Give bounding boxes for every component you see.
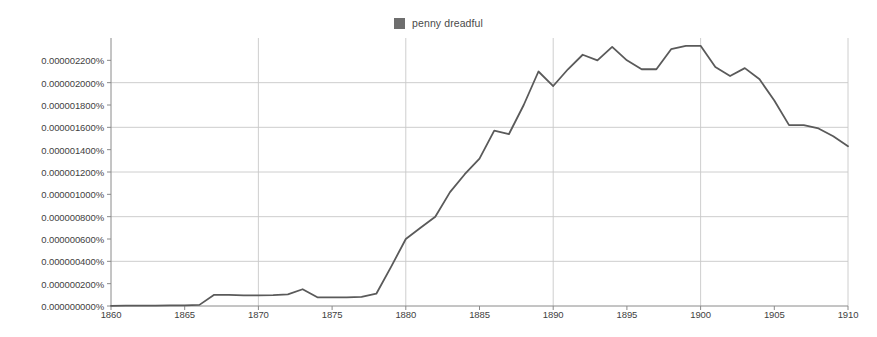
x-axis-tick-label: 1875 bbox=[322, 309, 343, 320]
legend-color-swatch-icon bbox=[394, 18, 405, 29]
x-axis-tick-label: 1890 bbox=[543, 309, 564, 320]
x-axis-tick-label: 1895 bbox=[617, 309, 638, 320]
x-axis-tick-label: 1885 bbox=[469, 309, 490, 320]
x-axis-tick-label: 1900 bbox=[690, 309, 711, 320]
y-axis-tick-label: 0.000001000% bbox=[41, 189, 104, 200]
axis-tick-marks bbox=[107, 60, 848, 310]
y-axis-tick-label: 0.000000800% bbox=[41, 211, 104, 222]
x-axis-tick-label: 1880 bbox=[395, 309, 416, 320]
y-axis-tick-label: 0.000001400% bbox=[41, 144, 104, 155]
y-axis-tick-labels: 0.000000000%0.000000200%0.000000400%0.00… bbox=[0, 38, 108, 306]
y-axis-tick-label: 0.000001200% bbox=[41, 167, 104, 178]
x-axis-tick-label: 1865 bbox=[174, 309, 195, 320]
chart-legend: penny dreadful bbox=[0, 14, 877, 32]
y-axis-tick-label: 0.000001800% bbox=[41, 100, 104, 111]
ngram-frequency-chart: penny dreadful 0.000000000%0.000000200%0… bbox=[0, 0, 877, 337]
x-axis-tick-labels: 1860186518701875188018851890189519001905… bbox=[111, 309, 848, 329]
horizontal-gridlines bbox=[111, 83, 848, 262]
x-axis-tick-label: 1860 bbox=[101, 309, 122, 320]
y-axis-tick-label: 0.000000000% bbox=[41, 301, 104, 312]
plot-svg bbox=[111, 38, 848, 306]
y-axis-tick-label: 0.000001600% bbox=[41, 122, 104, 133]
y-axis-tick-label: 0.000002000% bbox=[41, 77, 104, 88]
data-series-line-penny-dreadful bbox=[111, 46, 848, 306]
legend-entry-label: penny dreadful bbox=[412, 17, 483, 29]
plot-area bbox=[111, 38, 848, 306]
y-axis-tick-label: 0.000002200% bbox=[41, 55, 104, 66]
x-axis-tick-label: 1905 bbox=[764, 309, 785, 320]
y-axis-tick-label: 0.000000600% bbox=[41, 234, 104, 245]
legend-entry-penny-dreadful[interactable]: penny dreadful bbox=[394, 17, 483, 29]
y-axis-tick-label: 0.000000400% bbox=[41, 256, 104, 267]
x-axis-tick-label: 1910 bbox=[838, 309, 859, 320]
y-axis-tick-label: 0.000000200% bbox=[41, 278, 104, 289]
x-axis-tick-label: 1870 bbox=[248, 309, 269, 320]
